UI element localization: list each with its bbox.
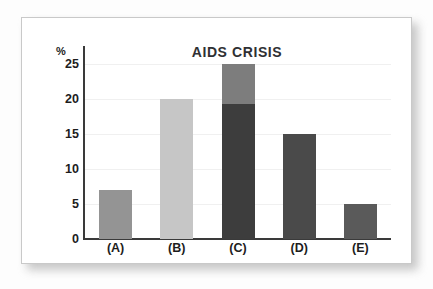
chart-card: AIDS CRISIS % 0510152025 (A)(B)(C)(D)(E) <box>21 17 412 264</box>
bar-segment <box>160 99 193 239</box>
x-tick-label: (A) <box>86 242 146 255</box>
bar-segment <box>99 190 132 239</box>
y-axis-unit-label: % <box>56 46 66 57</box>
y-tick-label: 15 <box>65 128 79 140</box>
bar-segment <box>344 204 377 239</box>
y-tick-label: 10 <box>65 163 79 175</box>
bar-d <box>283 134 316 239</box>
x-tick-label: (E) <box>330 242 390 255</box>
bar-segment <box>222 104 255 239</box>
x-tick-label: (B) <box>147 242 207 255</box>
bar-segment <box>283 134 316 239</box>
bar-b <box>160 99 193 239</box>
y-tick-label: 0 <box>72 233 79 245</box>
bar-e <box>344 204 377 239</box>
bar-c <box>222 64 255 239</box>
bar-segment <box>222 64 255 104</box>
y-tick-label: 20 <box>65 93 79 105</box>
screenshot-canvas: AIDS CRISIS % 0510152025 (A)(B)(C)(D)(E) <box>0 0 433 289</box>
bar-a <box>99 190 132 239</box>
y-tick-label: 25 <box>65 58 79 70</box>
bar-chart: AIDS CRISIS % 0510152025 (A)(B)(C)(D)(E) <box>22 18 411 263</box>
x-tick-label: (C) <box>208 242 268 255</box>
y-tick-label: 5 <box>72 198 79 210</box>
x-tick-label: (D) <box>269 242 329 255</box>
plot-area <box>85 46 391 239</box>
